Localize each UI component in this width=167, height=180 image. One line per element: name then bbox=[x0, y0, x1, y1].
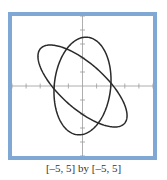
window-caption: [–5, 5] by [–5, 5] bbox=[0, 162, 167, 174]
viewing-window-frame bbox=[8, 12, 157, 160]
plot-area bbox=[12, 16, 153, 156]
